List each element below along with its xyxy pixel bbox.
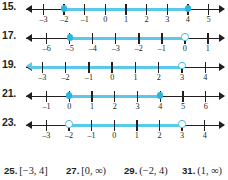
tick-label: 4 [197,131,213,141]
tick-label: –1 [38,102,54,112]
left-arrowhead-icon [26,121,32,129]
axis-tick [43,4,44,15]
tick-label: –2 [61,131,77,141]
axis-tick [92,33,93,44]
tick-label: –6 [39,44,55,54]
tick-label: –2 [131,44,147,54]
closed-endpoint-dot [61,5,67,11]
tick-label: 2 [107,102,123,112]
axis-tick [42,62,43,73]
open-endpoint-circle [178,120,185,127]
tick-label: 1 [200,44,216,54]
answer-key-row: 25.[−3, 4]27.[0, ∞)29.(−2, 4)31.(1, ∞) [0,158,228,178]
right-arrowhead-icon [219,92,225,100]
axis-tick [114,120,115,131]
open-endpoint-circle [181,33,188,40]
exercise-number: 15. [2,1,16,12]
tick-label: 4 [152,102,168,112]
axis-tick [158,62,159,73]
axis-tick [91,91,92,102]
tick-label: 2 [152,131,168,141]
tick-label: 6 [198,102,214,112]
answer-entry: 25.[−3, 4] [4,160,48,178]
axis-tick [161,33,162,44]
number-line: –3–2–101234 [26,116,224,144]
axis-tick [115,33,116,44]
axis-tick [46,120,47,131]
tick-label: 5 [175,102,191,112]
answer-interval-notation: [0, ∞) [81,165,106,176]
axis-tick [84,4,85,15]
exercise-row: 21.–10123456 [0,87,228,116]
axis-tick [207,33,208,44]
axis-tick [159,120,160,131]
tick-label: –1 [84,131,100,141]
tick-label: –1 [154,44,170,54]
tick-label: 0 [177,44,193,54]
closed-endpoint-dot [66,92,72,98]
tick-label: –2 [56,15,72,25]
tick-label: –4 [85,44,101,54]
left-arrowhead-icon [26,5,32,13]
tick-label: 1 [127,73,143,83]
left-arrowhead-icon [26,92,32,100]
open-endpoint-circle [178,62,185,69]
axis-tick [65,62,66,73]
exercise-number: 17. [2,30,16,41]
tick-label: –1 [77,15,93,25]
axis-tick [46,33,47,44]
axis-tick [167,4,168,15]
right-arrowhead-icon [219,63,225,71]
axis-tick [138,33,139,44]
axis-tick [182,91,183,102]
axis-tick [136,120,137,131]
answer-number: 31. [182,165,195,176]
tick-label: 1 [129,131,145,141]
right-arrowhead-icon [219,121,225,129]
axis-tick [125,4,126,15]
highlighted-interval [69,124,182,127]
exercise-number: 19. [2,59,16,70]
tick-label: 2 [139,15,155,25]
axis-tick [205,91,206,102]
tick-label: 0 [104,73,120,83]
answer-number: 25. [4,165,17,176]
interval-left-arrowhead-icon [26,62,32,70]
answer-entry: 29.(−2, 4) [124,160,168,178]
tick-label: –5 [62,44,78,54]
tick-label: –3 [38,131,54,141]
closed-endpoint-dot [157,92,163,98]
tick-label: 0 [97,15,113,25]
number-line: –3–2–1012345 [26,0,224,28]
axis-tick [204,120,205,131]
open-endpoint-circle [65,120,72,127]
exercise-row: 19.–3–2–101234 [0,58,228,87]
axis-tick [111,62,112,73]
closed-endpoint-dot [185,5,191,11]
number-line: –3–2–101234 [26,58,224,86]
exercise-row: 17.–6–5–4–3–2–101 [0,29,228,58]
highlighted-interval [70,37,185,40]
answer-interval-notation: [−3, 4] [19,165,47,176]
number-line: –10123456 [26,87,224,115]
closed-endpoint-dot [67,34,73,40]
answer-number: 29. [124,165,137,176]
axis-tick [137,91,138,102]
axis-tick [114,91,115,102]
tick-label: –3 [36,15,52,25]
answer-interval-notation: (1, ∞) [197,165,222,176]
tick-label: 3 [174,131,190,141]
axis-tick [88,62,89,73]
axis-tick [105,4,106,15]
answer-entry: 31.(1, ∞) [182,160,222,178]
tick-label: 5 [201,15,217,25]
exercise-row: 15.–3–2–1012345 [0,0,228,29]
exercise-number: 21. [2,88,16,99]
tick-label: 0 [61,102,77,112]
tick-label: 4 [180,15,196,25]
right-arrowhead-icon [219,5,225,13]
tick-label: –1 [81,73,97,83]
axis-tick [135,62,136,73]
tick-label: 3 [130,102,146,112]
axis-tick [46,91,47,102]
